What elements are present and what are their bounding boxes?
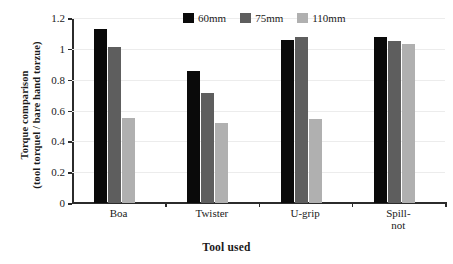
x-tick-mark — [445, 202, 447, 207]
y-tick-mark — [68, 172, 72, 174]
plot-area: 00.20.40.60.811.2 — [72, 18, 445, 203]
legend-item[interactable]: 60mm — [183, 12, 226, 24]
legend-label: 75mm — [255, 12, 283, 24]
legend-item[interactable]: 75mm — [240, 12, 283, 24]
bar — [187, 71, 200, 203]
bar-group — [94, 18, 136, 203]
x-tick-label: U-grip — [259, 207, 352, 219]
bar-group — [374, 18, 416, 203]
legend-label: 60mm — [198, 12, 226, 24]
bar — [388, 41, 401, 203]
x-axis-title: Tool used — [0, 241, 453, 253]
y-tick-mark — [68, 203, 72, 205]
y-tick-label: 1 — [60, 43, 66, 55]
y-axis-title-line1: Torque comparison — [19, 71, 31, 160]
legend-swatch-icon — [183, 13, 194, 23]
bar-group — [281, 18, 323, 203]
legend-item[interactable]: 110mm — [297, 12, 345, 24]
legend-swatch-icon — [240, 13, 251, 23]
x-tick-label: Boa — [72, 207, 165, 219]
y-tick-mark — [68, 141, 72, 143]
y-tick-label: 0.6 — [51, 104, 65, 116]
y-tick-label: 0.4 — [51, 135, 65, 147]
y-axis-title: Torque comparison (tool torquel / bare h… — [11, 10, 51, 220]
legend-swatch-icon — [297, 13, 308, 23]
bar — [309, 119, 322, 203]
y-tick-mark — [68, 111, 72, 113]
bar — [108, 47, 121, 203]
y-tick-mark — [68, 80, 72, 82]
legend-label: 110mm — [312, 12, 345, 24]
y-tick-label: 0.8 — [51, 73, 65, 85]
y-axis-title-line2: (tool torquel / bare hand torzue) — [31, 41, 43, 188]
bar — [215, 123, 228, 203]
chart-figure: Torque comparison (tool torquel / bare h… — [0, 0, 453, 264]
bar — [281, 40, 294, 203]
x-tick-label: Spill- not — [352, 207, 445, 232]
bar — [402, 44, 415, 203]
bar — [122, 118, 135, 203]
legend: 60mm75mm110mm — [183, 12, 345, 24]
bar — [374, 37, 387, 204]
bar — [94, 29, 107, 203]
y-tick-label: 0 — [60, 197, 66, 209]
y-tick-label: 0.2 — [51, 166, 65, 178]
x-tick-label: Twister — [165, 207, 258, 219]
y-tick-label: 1.2 — [51, 12, 65, 24]
y-tick-mark — [68, 18, 72, 20]
bar — [295, 37, 308, 204]
y-tick-mark — [68, 49, 72, 51]
bar — [201, 93, 214, 203]
bar-group — [187, 18, 229, 203]
